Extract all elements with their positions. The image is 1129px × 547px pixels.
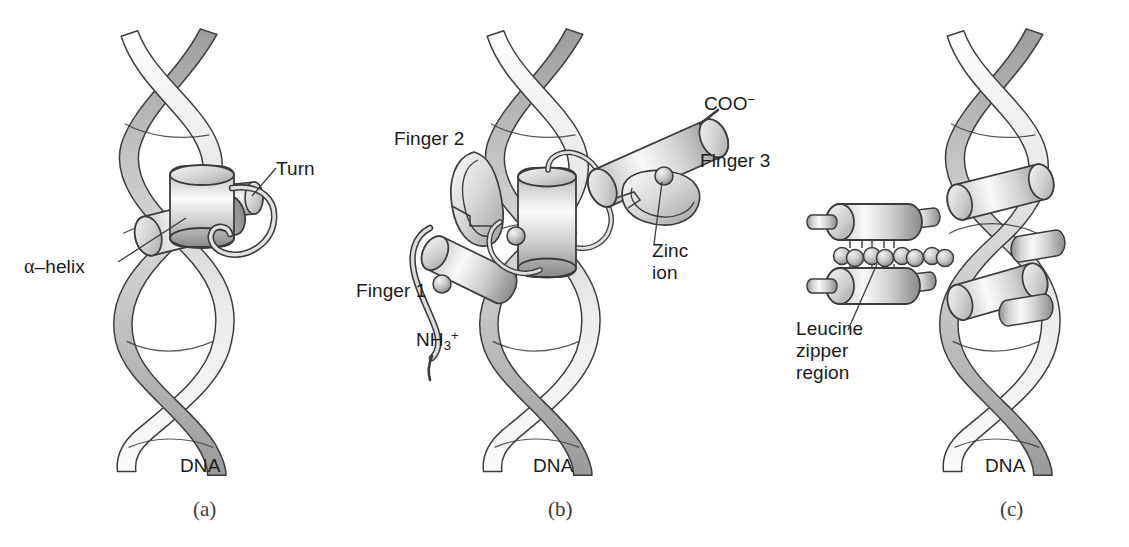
nh3-base: NH bbox=[416, 329, 444, 350]
coo-base: COO bbox=[704, 93, 748, 114]
leucine-zipper-label-line2: zipper bbox=[796, 340, 848, 362]
dna-label-b: DNA bbox=[533, 455, 573, 477]
leucine-zipper-helix-upper bbox=[807, 204, 922, 240]
leucine-zipper-motif bbox=[807, 161, 1065, 330]
nh3-superscript: + bbox=[451, 328, 459, 343]
amino-terminus-label: NH3+ bbox=[416, 328, 459, 353]
zinc-ion-sphere-finger3 bbox=[655, 167, 673, 185]
alpha-helix-label-text: –helix bbox=[35, 256, 85, 277]
turn-label: Turn bbox=[276, 158, 315, 180]
zinc-ion-sphere-finger1 bbox=[433, 275, 451, 293]
zinc-ion-label-line2: ion bbox=[652, 262, 678, 284]
alpha-helix-cylinder-main bbox=[170, 165, 234, 248]
carboxyl-terminus-label: COO− bbox=[704, 92, 755, 115]
leucine-side-chains bbox=[834, 240, 954, 268]
finger1-label: Finger 1 bbox=[356, 280, 427, 302]
zinc-ion-label-line1: Zinc bbox=[652, 240, 688, 262]
finger3-label: Finger 3 bbox=[700, 150, 771, 172]
nh3-subscript: 3 bbox=[444, 338, 451, 353]
leucine-zipper-label-line3: region bbox=[796, 362, 849, 384]
dna-label-c: DNA bbox=[985, 455, 1025, 477]
leucine-zipper-helix-lower bbox=[807, 268, 920, 304]
dna-label-a: DNA bbox=[180, 455, 220, 477]
finger2-label: Finger 2 bbox=[394, 128, 465, 150]
alpha-helix-label: α–helix bbox=[24, 255, 85, 279]
leucine-zipper-label-line1: Leucine bbox=[796, 318, 863, 340]
panel-caption-a: (a) bbox=[193, 497, 216, 522]
alpha-symbol: α bbox=[24, 255, 35, 277]
dna-binding-motifs-figure: α–helix Turn DNA (a) Finger 2 Finger 1 F… bbox=[0, 0, 1129, 547]
panel-caption-b: (b) bbox=[548, 497, 573, 522]
coo-superscript: − bbox=[748, 92, 756, 107]
finger2-helix-cylinder bbox=[518, 168, 576, 278]
panel-caption-c: (c) bbox=[1000, 497, 1023, 522]
zinc-ion-sphere-finger2 bbox=[507, 227, 525, 245]
